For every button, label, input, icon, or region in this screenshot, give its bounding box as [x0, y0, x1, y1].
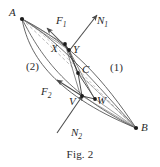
- vector-label-F2: F2: [41, 86, 51, 100]
- point-dot-B: [134, 126, 138, 130]
- region-label-2: (2): [26, 61, 39, 72]
- point-dot-Y: [67, 48, 71, 52]
- point-label-Y: Y: [73, 44, 79, 55]
- vector-label-F1-base: F: [56, 14, 63, 26]
- vector-label-F1-sub: 1: [63, 20, 67, 29]
- point-dot-A: [20, 17, 24, 21]
- vector-label-N1-sub: 1: [104, 20, 108, 29]
- point-dot-C: [76, 71, 80, 75]
- vector-label-N2-sub: 2: [78, 132, 82, 141]
- vector-label-N1: N1: [97, 15, 108, 29]
- point-label-X: X: [51, 43, 58, 54]
- figure-container: A X Y C V W B F1 N1 F2 N2 (1) (2) Fig. 2: [0, 0, 160, 167]
- point-label-C: C: [82, 64, 89, 75]
- point-dot-V: [80, 94, 84, 98]
- point-label-B: B: [141, 122, 148, 133]
- vector-label-F1: F1: [56, 15, 66, 29]
- point-label-V: V: [69, 96, 76, 107]
- point-label-A: A: [9, 7, 16, 18]
- point-label-W: W: [97, 95, 106, 106]
- vector-label-F2-sub: 2: [48, 91, 52, 100]
- ray-B-to-C: [78, 73, 136, 128]
- vector-label-F2-base: F: [41, 85, 48, 97]
- region-label-1: (1): [110, 62, 123, 73]
- figure-caption: Fig. 2: [0, 148, 160, 160]
- point-dot-X: [63, 42, 67, 46]
- figure-drawing: [0, 0, 160, 167]
- vector-label-N2: N2: [71, 127, 82, 141]
